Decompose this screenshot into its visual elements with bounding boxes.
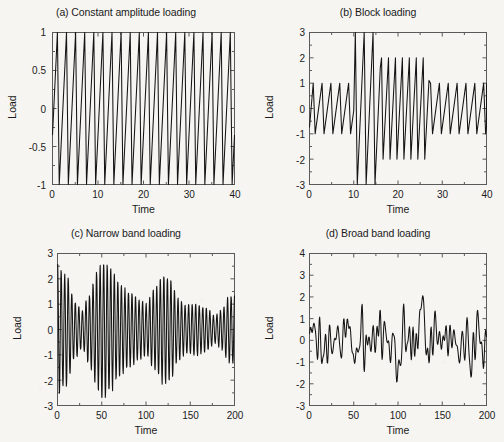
panel-c-title: (c) Narrow band loading <box>0 227 252 239</box>
panel-d-ytick-4: 4 <box>281 248 305 259</box>
panel-c-waveform <box>57 253 235 406</box>
panel-d-plot-area <box>309 253 487 406</box>
panel-a-xtick-20: 20 <box>138 189 149 200</box>
panel-c-plot-area <box>57 253 235 406</box>
panel-c-ytick-0: 0 <box>29 324 53 335</box>
panel-a-xtick-40: 40 <box>229 189 240 200</box>
panel-d-xtick-50: 50 <box>348 410 359 421</box>
panel-d-ytick-3: 3 <box>281 269 305 280</box>
panel-b-xtick-40: 40 <box>481 189 492 200</box>
panel-b-ytick-3: 3 <box>281 27 305 38</box>
panel-d-xtick-150: 150 <box>434 410 451 421</box>
panel-a-ytick-0: 0 <box>20 103 46 114</box>
panel-b-xtick-10: 10 <box>348 189 359 200</box>
panel-d-ytick-m2: -2 <box>281 379 305 390</box>
panel-d-xtick-0: 0 <box>306 410 312 421</box>
panel-c-xtick-150: 150 <box>182 410 199 421</box>
panel-b-ytick-m3: -3 <box>281 180 305 191</box>
panel-a-xlabel: Time <box>52 203 235 215</box>
panel-d-ytick-m1: -1 <box>281 357 305 368</box>
panel-d-xtick-200: 200 <box>479 410 496 421</box>
panel-a-xtick-0: 0 <box>49 189 55 200</box>
panel-b-xtick-0: 0 <box>306 189 312 200</box>
panel-c-xlabel: Time <box>57 424 235 436</box>
panel-d-waveform <box>309 253 487 406</box>
panel-c-ytick-m2: -2 <box>29 375 53 386</box>
panel-a-xtick-30: 30 <box>184 189 195 200</box>
panel-b-ytick-0: 0 <box>281 103 305 114</box>
panel-a-plot-area <box>52 32 235 185</box>
panel-a-ytick-0.5: 0.5 <box>20 65 46 76</box>
panel-a-constant-amplitude: (a) Constant amplitude loading Load 1 0.… <box>0 0 252 221</box>
panel-d-xtick-100: 100 <box>390 410 407 421</box>
panel-c-xtick-0: 0 <box>54 410 60 421</box>
panel-b-ytick-1: 1 <box>281 78 305 89</box>
panel-d-broad-band: (d) Broad band loading Load 4 3 2 1 0 -1… <box>252 221 504 442</box>
panel-b-waveform <box>309 32 487 185</box>
panel-d-ylabel: Load <box>263 308 275 348</box>
panel-c-ytick-m1: -1 <box>29 350 53 361</box>
panel-c-xtick-100: 100 <box>138 410 155 421</box>
panel-b-block-loading: (b) Block loading Load 3 2 1 0 -1 -2 -3 … <box>252 0 504 221</box>
panel-d-ytick-1: 1 <box>281 313 305 324</box>
panel-b-ytick-2: 2 <box>281 52 305 63</box>
panel-b-title: (b) Block loading <box>252 6 504 18</box>
panel-b-xlabel: Time <box>309 203 487 215</box>
panel-a-xtick-10: 10 <box>92 189 103 200</box>
panel-b-ytick-m1: -1 <box>281 129 305 140</box>
panel-a-ytick-1: 1 <box>20 27 46 38</box>
panel-c-xtick-50: 50 <box>96 410 107 421</box>
panel-c-ytick-2: 2 <box>29 273 53 284</box>
panel-c-ytick-m3: -3 <box>29 401 53 412</box>
panel-d-title: (d) Broad band loading <box>252 227 504 239</box>
figure-panel-grid: (a) Constant amplitude loading Load 1 0.… <box>0 0 504 442</box>
panel-a-title: (a) Constant amplitude loading <box>0 6 252 18</box>
panel-d-ytick-2: 2 <box>281 291 305 302</box>
panel-b-xtick-20: 20 <box>392 189 403 200</box>
panel-b-ytick-m2: -2 <box>281 154 305 165</box>
panel-a-ylabel: Load <box>6 87 18 127</box>
panel-d-ytick-m3: -3 <box>281 401 305 412</box>
panel-b-ylabel: Load <box>263 87 275 127</box>
panel-d-ytick-0: 0 <box>281 335 305 346</box>
panel-d-xlabel: Time <box>309 424 487 436</box>
panel-c-ytick-1: 1 <box>29 299 53 310</box>
panel-c-xtick-200: 200 <box>227 410 244 421</box>
panel-c-ytick-3: 3 <box>29 248 53 259</box>
panel-a-waveform <box>52 32 235 185</box>
panel-a-ytick-m0.5: -0.5 <box>20 141 46 152</box>
panel-b-xtick-30: 30 <box>437 189 448 200</box>
panel-c-ylabel: Load <box>11 308 23 348</box>
panel-c-narrow-band: (c) Narrow band loading Load 3 2 1 0 -1 … <box>0 221 252 442</box>
panel-b-plot-area <box>309 32 487 185</box>
panel-a-ytick-m1: -1 <box>20 180 46 191</box>
